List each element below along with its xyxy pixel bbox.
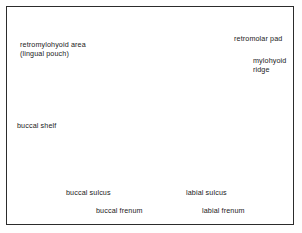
label-buccal-frenum: buccal frenum [96,207,143,216]
label-line: buccal frenum [96,207,143,216]
label-line: retromolar pad [234,35,282,44]
label-retromolar-pad: retromolar pad [234,35,282,44]
label-line: buccal sulcus [66,189,111,198]
label-buccal-sulcus: buccal sulcus [66,189,111,198]
label-mylohyoid-ridge: mylohyoid ridge [253,57,286,74]
label-line: (lingual pouch) [20,50,86,59]
label-labial-frenum: labial frenum [202,207,245,216]
label-line: buccal shelf [17,122,56,131]
label-buccal-shelf: buccal shelf [17,122,56,131]
label-labial-sulcus: labial sulcus [186,189,227,198]
label-line: labial sulcus [186,189,227,198]
label-line: labial frenum [202,207,245,216]
anatomy-figure: retromylohyoid area (lingual pouch) retr… [0,0,302,233]
label-retromylohyoid-area: retromylohyoid area (lingual pouch) [20,41,86,58]
label-line: ridge [253,66,286,75]
